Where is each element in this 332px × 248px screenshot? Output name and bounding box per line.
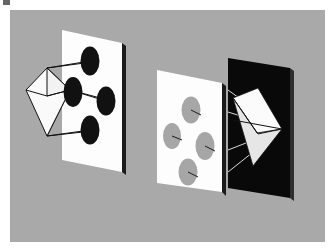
figure-root xyxy=(0,0,332,248)
white-screen-left-edge xyxy=(122,43,126,175)
figure-canvas xyxy=(0,0,332,248)
white-screen-right-edge xyxy=(222,83,226,196)
black-screen-edge xyxy=(290,68,294,201)
shadow-ellipse-left xyxy=(64,77,83,107)
